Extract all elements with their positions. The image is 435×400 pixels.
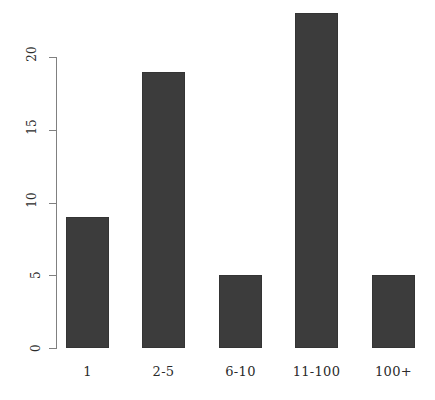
bar bbox=[66, 217, 109, 348]
x-axis-label: 1 bbox=[60, 364, 115, 379]
x-axis-label: 6-10 bbox=[213, 364, 268, 379]
bar bbox=[219, 275, 262, 348]
y-axis-tick-text-4: 20 bbox=[25, 46, 39, 62]
x-axis-label-text: 11-100 bbox=[293, 364, 341, 379]
bar-chart: 0 5 10 15 20 1 2-5 6-10 bbox=[0, 0, 435, 400]
y-axis-tick-text-3: 15 bbox=[25, 119, 39, 135]
x-axis-label: 2-5 bbox=[136, 364, 191, 379]
x-axis-label-text: 100+ bbox=[375, 364, 412, 379]
y-axis-tick-text-2: 10 bbox=[25, 192, 39, 208]
y-axis-tick-text-0: 0 bbox=[29, 344, 43, 352]
y-axis-tick-1 bbox=[49, 275, 56, 276]
y-axis-tick-2 bbox=[49, 203, 56, 204]
y-axis-tick-0 bbox=[49, 348, 56, 349]
y-axis-tick-4 bbox=[49, 57, 56, 58]
x-axis-label-text: 6-10 bbox=[225, 364, 255, 379]
y-axis-line bbox=[56, 57, 57, 349]
x-axis-label-text: 2-5 bbox=[153, 364, 175, 379]
y-axis-tick-label-3: 15 bbox=[0, 120, 40, 134]
y-axis-tick-label-1: 5 bbox=[0, 268, 40, 282]
bar bbox=[372, 275, 415, 348]
x-axis-label: 100+ bbox=[366, 364, 421, 379]
y-axis-tick-text-1: 5 bbox=[29, 271, 43, 279]
y-axis-tick-label-2: 10 bbox=[0, 193, 40, 207]
x-axis-label-text: 1 bbox=[83, 364, 92, 379]
bar bbox=[142, 72, 185, 348]
y-axis-tick-label-0: 0 bbox=[0, 341, 40, 355]
x-axis-label: 11-100 bbox=[289, 364, 344, 379]
y-axis-tick-3 bbox=[49, 130, 56, 131]
plot-area: 0 5 10 15 20 1 2-5 6-10 bbox=[0, 0, 435, 400]
y-axis-tick-label-4: 20 bbox=[0, 47, 40, 61]
bar bbox=[295, 13, 338, 348]
